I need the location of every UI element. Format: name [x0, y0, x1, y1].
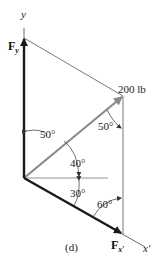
angle-label-50-right: 50°: [98, 120, 113, 132]
angle-label-30: 30°: [70, 187, 85, 199]
diagram-canvas: y Fy 200 lb 50° 50° 40° 30° 60° Fx′ x′ (…: [0, 0, 161, 261]
fy-label: Fy: [8, 39, 19, 55]
force-magnitude-label: 200 lb: [118, 83, 146, 95]
angle-label-40: 40°: [70, 157, 85, 169]
y-axis-label: y: [20, 8, 26, 20]
force-diagram: y Fy 200 lb 50° 50° 40° 30° 60° Fx′ x′ (…: [0, 0, 161, 261]
figure-caption: (d): [65, 241, 78, 254]
fx-label: Fx′: [111, 238, 125, 254]
construction-line-top: [24, 38, 123, 96]
angle-label-60: 60°: [97, 198, 112, 210]
x-prime-axis-label: x′: [142, 242, 151, 254]
angle-label-50-left: 50°: [40, 128, 55, 140]
